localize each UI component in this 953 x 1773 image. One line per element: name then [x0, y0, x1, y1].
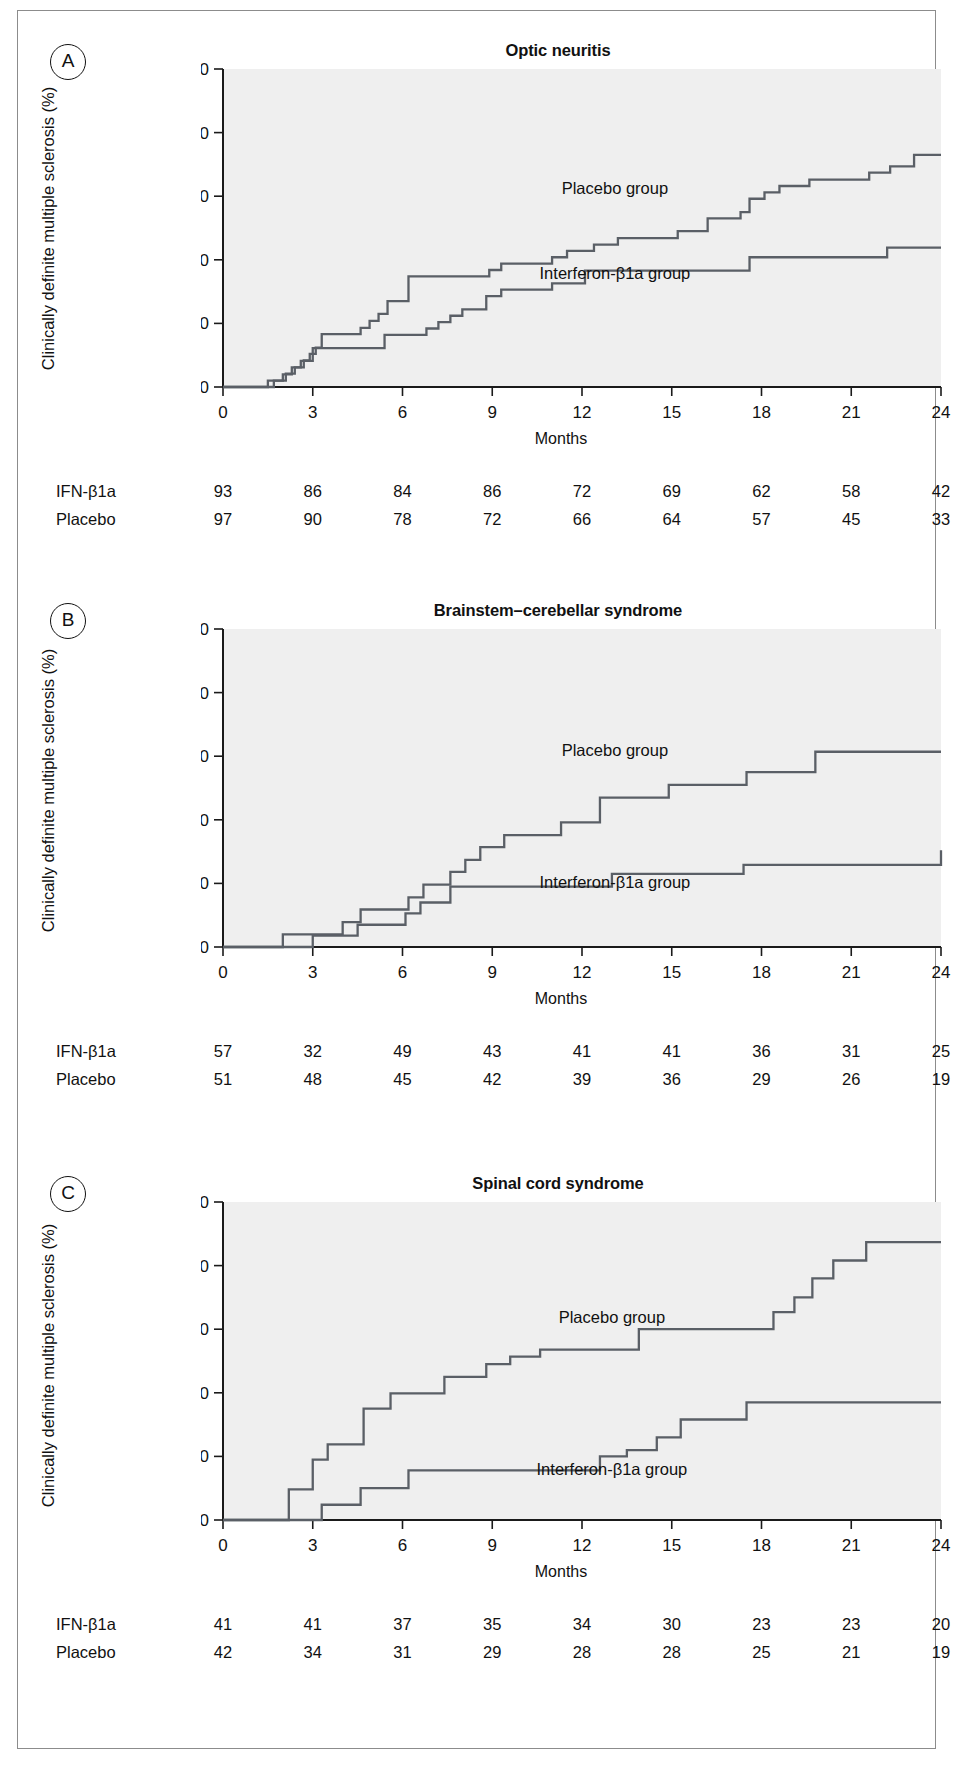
risk-row-placebo-b: Placebo 514845423936292619 [56, 1065, 926, 1093]
risk-table-b: IFN-β1a 573249434141363125 Placebo 51484… [56, 1037, 926, 1093]
risk-row-placebo-a: Placebo 979078726664574533 [56, 505, 926, 533]
risk-value: 30 [652, 1610, 692, 1638]
risk-value: 41 [203, 1610, 243, 1638]
x-axis-tick-label: 12 [573, 1536, 592, 1555]
risk-value: 26 [831, 1065, 871, 1093]
risk-value: 29 [742, 1065, 782, 1093]
risk-row-label: Placebo [56, 1638, 186, 1666]
plot-area-b: 0102030405003691215182124Placebo groupIn… [201, 623, 953, 991]
risk-row-interferon-c: IFN-β1a 414137353430232320 [56, 1610, 926, 1638]
risk-value: 32 [293, 1037, 333, 1065]
panel-brainstem-cerebellar-syndrome: B Brainstem–cerebellar syndrome Clinical… [18, 581, 935, 1156]
panel-optic-neuritis: A Optic neuritis Clinically definite mul… [18, 11, 935, 581]
risk-row-label: Placebo [56, 505, 186, 533]
y-axis-tick-label: 20 [201, 251, 209, 270]
x-axis-tick-label: 21 [842, 1536, 861, 1555]
risk-value: 86 [293, 477, 333, 505]
risk-value: 20 [921, 1610, 953, 1638]
risk-value: 42 [472, 1065, 512, 1093]
risk-value: 62 [742, 477, 782, 505]
km-plot-a: 0102030405003691215182124Placebo groupIn… [201, 63, 953, 431]
risk-value: 86 [472, 477, 512, 505]
risk-row-label: IFN-β1a [56, 1037, 186, 1065]
x-axis-tick-label: 9 [488, 403, 497, 422]
y-axis-tick-label: 0 [201, 1511, 209, 1530]
risk-value: 57 [203, 1037, 243, 1065]
risk-row-label: Placebo [56, 1065, 186, 1093]
x-axis-tick-label: 24 [932, 403, 951, 422]
risk-value: 84 [383, 477, 423, 505]
x-axis-tick-label: 15 [662, 1536, 681, 1555]
series-label-placebo: Placebo group [562, 179, 668, 197]
y-axis-label-a: Clinically definite multiple sclerosis (… [39, 64, 58, 394]
y-axis-tick-label: 50 [201, 63, 209, 79]
x-axis-tick-label: 9 [488, 963, 497, 982]
risk-value: 57 [742, 505, 782, 533]
risk-value: 45 [383, 1065, 423, 1093]
risk-value: 66 [562, 505, 602, 533]
x-axis-tick-label: 24 [932, 963, 951, 982]
risk-value: 41 [562, 1037, 602, 1065]
series-label-placebo: Placebo group [559, 1308, 665, 1326]
x-axis-tick-label: 18 [752, 1536, 771, 1555]
risk-value: 72 [562, 477, 602, 505]
panel-title-c: Spinal cord syndrome [198, 1174, 918, 1193]
risk-row-label: IFN-β1a [56, 477, 186, 505]
y-axis-tick-label: 0 [201, 378, 209, 397]
y-axis-label-c: Clinically definite multiple sclerosis (… [39, 1201, 58, 1531]
y-axis-tick-label: 30 [201, 1320, 209, 1339]
risk-value: 58 [831, 477, 871, 505]
risk-value: 31 [383, 1638, 423, 1666]
series-label-interferon: Interferon-β1a group [537, 1460, 688, 1478]
x-axis-tick-label: 0 [218, 963, 227, 982]
x-axis-tick-label: 12 [573, 963, 592, 982]
y-axis-tick-label: 10 [201, 874, 209, 893]
risk-table-a: IFN-β1a 938684867269625842 Placebo 97907… [56, 477, 926, 533]
risk-value: 23 [831, 1610, 871, 1638]
risk-value: 21 [831, 1638, 871, 1666]
x-axis-tick-label: 21 [842, 403, 861, 422]
plot-background [223, 69, 941, 387]
risk-row-interferon-b: IFN-β1a 573249434141363125 [56, 1037, 926, 1065]
risk-value: 37 [383, 1610, 423, 1638]
x-axis-tick-label: 15 [662, 403, 681, 422]
risk-value: 28 [652, 1638, 692, 1666]
risk-value: 45 [831, 505, 871, 533]
risk-value: 25 [742, 1638, 782, 1666]
risk-value: 33 [921, 505, 953, 533]
plot-background [223, 629, 941, 947]
y-axis-tick-label: 10 [201, 1447, 209, 1466]
risk-value: 42 [921, 477, 953, 505]
series-label-interferon: Interferon-β1a group [540, 873, 691, 891]
risk-value: 19 [921, 1065, 953, 1093]
risk-value: 35 [472, 1610, 512, 1638]
x-axis-tick-label: 6 [398, 1536, 407, 1555]
y-axis-tick-label: 40 [201, 124, 209, 143]
x-axis-tick-label: 3 [308, 1536, 317, 1555]
plot-area-a: 0102030405003691215182124Placebo groupIn… [201, 63, 953, 431]
risk-value: 31 [831, 1037, 871, 1065]
risk-value: 48 [293, 1065, 333, 1093]
plot-area-c: 0102030405003691215182124Placebo groupIn… [201, 1196, 953, 1564]
x-axis-label-a: Months [201, 430, 921, 448]
panel-title-b: Brainstem–cerebellar syndrome [198, 601, 918, 620]
risk-value: 29 [472, 1638, 512, 1666]
risk-value: 36 [742, 1037, 782, 1065]
risk-row-label: IFN-β1a [56, 1610, 186, 1638]
risk-value: 90 [293, 505, 333, 533]
risk-value: 72 [472, 505, 512, 533]
x-axis-tick-label: 24 [932, 1536, 951, 1555]
risk-value: 51 [203, 1065, 243, 1093]
x-axis-tick-label: 18 [752, 403, 771, 422]
y-axis-tick-label: 50 [201, 623, 209, 639]
risk-value: 23 [742, 1610, 782, 1638]
km-plot-c: 0102030405003691215182124Placebo groupIn… [201, 1196, 953, 1564]
x-axis-tick-label: 3 [308, 963, 317, 982]
x-axis-tick-label: 6 [398, 403, 407, 422]
y-axis-tick-label: 20 [201, 1384, 209, 1403]
x-axis-label-b: Months [201, 990, 921, 1008]
risk-value: 43 [472, 1037, 512, 1065]
x-axis-tick-label: 12 [573, 403, 592, 422]
risk-value: 41 [293, 1610, 333, 1638]
y-axis-tick-label: 40 [201, 684, 209, 703]
